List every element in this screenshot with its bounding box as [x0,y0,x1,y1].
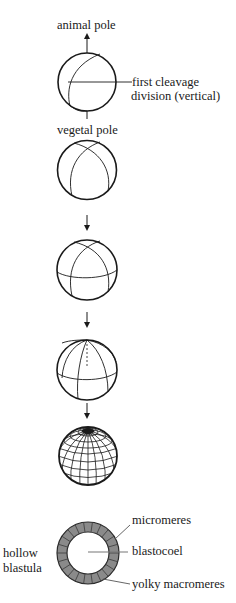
hollow-blastula-label-2: blastula [3,561,42,575]
stage-4-sphere [57,340,117,400]
vegetal-pole-label: vegetal pole [57,123,118,137]
blastocoel-label: blastocoel [132,544,183,558]
stage-3-sphere [57,240,117,300]
stage-2-sphere [58,141,117,200]
hollow-blastula-label-1: hollow [3,546,38,560]
micromeres-leader [115,525,130,539]
stage-5-morula [56,427,120,490]
stage-6-blastula [57,522,130,584]
yolky-macromeres-label: yolky macromeres [132,577,225,591]
first-cleavage-label-1: first cleavage [132,75,199,89]
micromeres-label: micromeres [132,513,191,527]
stage-1-first-cleavage [58,36,132,119]
macromeres-leader [103,579,130,584]
first-cleavage-label-2: division (vertical) [131,89,220,103]
animal-pole-label: animal pole [57,18,116,32]
